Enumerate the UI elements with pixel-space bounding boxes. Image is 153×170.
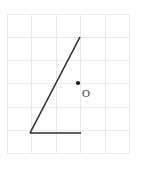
point-marker-dot [76,81,80,85]
angle-figure-svg: O [0,0,153,170]
point-label-o: O [82,87,90,99]
slanted-ray [30,37,80,133]
figure-canvas: O [0,0,153,170]
